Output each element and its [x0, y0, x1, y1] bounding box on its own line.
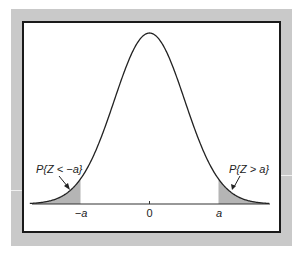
right-tail-shade: [218, 179, 269, 204]
right-tail-label: P{Z > a}: [229, 163, 269, 175]
density-curve: [30, 33, 269, 203]
left-tail-shade: [30, 179, 81, 204]
normal-curve-plot: P{Z < −a} P{Z > a} −a 0 a: [0, 0, 301, 254]
left-tail-label: P{Z < −a}: [36, 163, 83, 175]
tick-label-neg-a: −a: [75, 207, 88, 219]
left-arrowhead-icon: [64, 183, 70, 190]
tick-label-a: a: [216, 207, 222, 219]
tick-label-zero: 0: [146, 207, 152, 219]
right-tail-arrow: [234, 176, 240, 187]
